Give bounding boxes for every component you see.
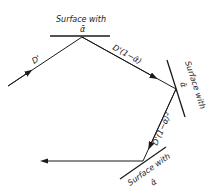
surface-1-label: Surface with (56, 15, 106, 24)
ray-1-label: D' (30, 54, 42, 66)
ray-3-label: D'(1−ᾱ)² (151, 111, 174, 147)
ray-2-arrow-icon (82, 37, 154, 77)
surface-3-alpha: ᾱ (149, 177, 159, 188)
surface-1-alpha: ᾱ (80, 25, 86, 34)
ray-outgoing-arrow-icon (40, 159, 48, 164)
ray-2-label: D'(1−ᾱ) (111, 43, 143, 66)
surface-2-alpha: ᾱ (178, 81, 188, 89)
reflection-diagram: Surface with ᾱ D' D'(1−ᾱ) Surface with ᾱ… (0, 0, 215, 194)
surface-2 (167, 60, 185, 117)
ray-incoming-arrow-icon (8, 72, 29, 86)
